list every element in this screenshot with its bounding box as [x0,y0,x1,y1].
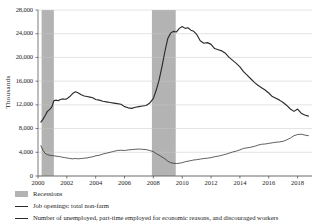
x-axis-tick-label: 2002 [52,180,82,187]
legend-item-recessions: Recessions [0,188,317,200]
legend-item-underemployed: Number of unemployed, part-time employed… [0,212,317,224]
y-axis-tick-label: 12,000 [0,101,33,108]
y-axis-tick-label: 28,000 [0,7,33,14]
x-axis-tick-label: 2008 [138,180,168,187]
y-axis-tick-label: 8,000 [0,125,33,132]
chart-canvas [0,0,317,190]
x-axis-tick-label: 2018 [283,180,313,187]
recession-swatch-icon [15,191,28,197]
chart-legend: Recessions Job openings: total non-farm … [0,188,317,224]
legend-label-recessions: Recessions [33,190,62,198]
line-thin-icon [15,206,28,207]
line-thick-icon [15,218,28,219]
y-axis-tick-label: 0 [0,173,33,180]
y-axis-tick-label: 24,000 [0,30,33,37]
x-axis-tick-label: 2004 [81,180,111,187]
legend-label-underemployed: Number of unemployed, part-time employed… [33,214,278,222]
y-axis-tick-label: 4,000 [0,149,33,156]
plot-area: Thousands 04,0008,00012,00016,00020,0002… [0,0,317,190]
y-axis-tick-label: 20,000 [0,54,33,61]
y-axis-label: Thousands [4,62,12,122]
chart-figure: Thousands 04,0008,00012,00016,00020,0002… [0,0,317,224]
x-axis-tick-label: 2006 [110,180,140,187]
legend-label-job-openings: Job openings: total non-farm [33,202,109,210]
x-axis-tick-label: 2010 [167,180,197,187]
legend-item-job-openings: Job openings: total non-farm [0,200,317,212]
x-axis-tick-label: 2000 [23,180,53,187]
x-axis-tick-label: 2016 [254,180,284,187]
y-axis-tick-label: 16,000 [0,78,33,85]
x-axis-tick-label: 2014 [225,180,255,187]
x-axis-tick-label: 2012 [196,180,226,187]
